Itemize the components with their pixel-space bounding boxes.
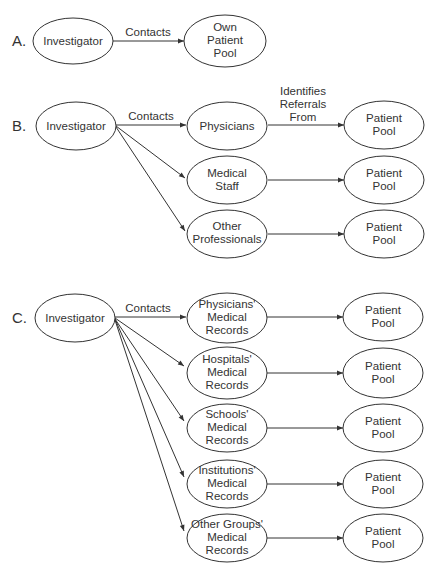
svg-text:Patient: Patient xyxy=(207,34,244,46)
edge-label-contacts: Contacts xyxy=(125,302,171,314)
section-label-c: C. xyxy=(12,309,27,326)
section-label-b: B. xyxy=(12,117,26,134)
svg-text:Pool: Pool xyxy=(371,428,394,440)
svg-text:Records: Records xyxy=(206,490,249,502)
node-patient-pool-2: Patient Pool xyxy=(344,156,424,204)
svg-text:Patient: Patient xyxy=(365,471,402,483)
node-patient-pool-3: Patient Pool xyxy=(344,210,424,258)
edge-label-contacts: Contacts xyxy=(128,110,174,122)
section-a: A. Contacts Investigator Own Patient Poo… xyxy=(12,15,266,67)
node-own-patient-pool: Own Patient Pool xyxy=(184,15,266,67)
svg-text:Investigator: Investigator xyxy=(45,312,105,324)
svg-text:Records: Records xyxy=(206,544,249,556)
svg-text:Hospitals': Hospitals' xyxy=(202,353,252,365)
svg-text:Own: Own xyxy=(213,21,237,33)
node-schools-medical-records: Schools' Medical Records xyxy=(187,404,267,452)
svg-text:Pool: Pool xyxy=(371,484,394,496)
edge-label-contacts: Contacts xyxy=(125,26,171,38)
svg-text:Medical: Medical xyxy=(207,311,247,323)
edge-investigator-to-schools-records xyxy=(115,319,184,421)
svg-text:Records: Records xyxy=(206,379,249,391)
svg-text:Patient: Patient xyxy=(366,221,403,233)
node-patient-pool-1: Patient Pool xyxy=(343,293,423,341)
svg-text:Pool: Pool xyxy=(372,180,395,192)
svg-text:Other Groups': Other Groups' xyxy=(191,518,263,530)
svg-text:From: From xyxy=(290,111,317,123)
node-physicians: Physicians xyxy=(187,102,267,150)
node-other-professionals: Other Professionals xyxy=(187,210,267,258)
svg-text:Identifies: Identifies xyxy=(280,85,326,97)
svg-text:Staff: Staff xyxy=(215,180,239,192)
svg-text:Medical: Medical xyxy=(207,167,247,179)
svg-text:Investigator: Investigator xyxy=(43,35,103,47)
node-investigator: Investigator xyxy=(36,102,116,150)
svg-text:Institutions': Institutions' xyxy=(198,464,255,476)
svg-text:Contacts: Contacts xyxy=(128,110,174,122)
edge-investigator-to-other-professionals xyxy=(116,127,185,231)
svg-text:Physicians': Physicians' xyxy=(198,298,255,310)
edge-investigator-to-other-groups-records xyxy=(115,320,184,531)
svg-text:Patient: Patient xyxy=(365,415,402,427)
svg-text:Pool: Pool xyxy=(371,317,394,329)
svg-text:Medical: Medical xyxy=(207,477,247,489)
node-patient-pool-2: Patient Pool xyxy=(343,348,423,398)
svg-text:Pool: Pool xyxy=(371,538,394,550)
node-patient-pool-4: Patient Pool xyxy=(343,460,423,508)
svg-text:Pool: Pool xyxy=(372,234,395,246)
node-medical-staff: Medical Staff xyxy=(187,156,267,204)
svg-text:Medical: Medical xyxy=(207,366,247,378)
edge-investigator-to-institutions-records xyxy=(115,319,184,477)
svg-text:Contacts: Contacts xyxy=(125,302,171,314)
svg-text:Other: Other xyxy=(213,220,242,232)
svg-text:Investigator: Investigator xyxy=(46,120,106,132)
node-patient-pool-3: Patient Pool xyxy=(343,404,423,452)
svg-text:Pool: Pool xyxy=(371,373,394,385)
node-patient-pool-5: Patient Pool xyxy=(343,514,423,562)
node-institutions-medical-records: Institutions' Medical Records xyxy=(187,460,267,508)
svg-text:Schools': Schools' xyxy=(205,408,248,420)
svg-text:Records: Records xyxy=(206,434,249,446)
node-investigator: Investigator xyxy=(33,18,113,64)
node-other-groups-medical-records: Other Groups' Medical Records xyxy=(187,514,267,562)
node-investigator: Investigator xyxy=(35,294,115,342)
node-hospitals-medical-records: Hospitals' Medical Records xyxy=(187,347,267,399)
svg-text:Pool: Pool xyxy=(213,47,236,59)
node-physicians-medical-records: Physicians' Medical Records xyxy=(187,293,267,343)
svg-text:Medical: Medical xyxy=(207,421,247,433)
recruitment-flow-diagram: A. Contacts Investigator Own Patient Poo… xyxy=(0,0,435,569)
section-label-a: A. xyxy=(12,32,26,49)
svg-text:Patient: Patient xyxy=(365,304,402,316)
svg-text:Professionals: Professionals xyxy=(192,233,261,245)
edge-label-identifies-referrals-from: Identifies Referrals From xyxy=(280,85,327,123)
svg-text:Patient: Patient xyxy=(365,360,402,372)
svg-text:Patient: Patient xyxy=(366,112,403,124)
svg-text:Patient: Patient xyxy=(366,167,403,179)
svg-text:Records: Records xyxy=(206,324,249,336)
svg-text:Referrals: Referrals xyxy=(280,98,327,110)
edge-investigator-to-medical-staff xyxy=(116,126,185,178)
svg-text:Pool: Pool xyxy=(372,125,395,137)
section-c: C. Contacts xyxy=(12,293,423,562)
svg-text:Physicians: Physicians xyxy=(200,120,255,132)
node-patient-pool-1: Patient Pool xyxy=(344,101,424,149)
section-b: B. Contacts Identifies Referrals From xyxy=(12,85,424,258)
svg-text:Patient: Patient xyxy=(365,525,402,537)
svg-text:Medical: Medical xyxy=(207,531,247,543)
svg-text:Contacts: Contacts xyxy=(125,26,171,38)
